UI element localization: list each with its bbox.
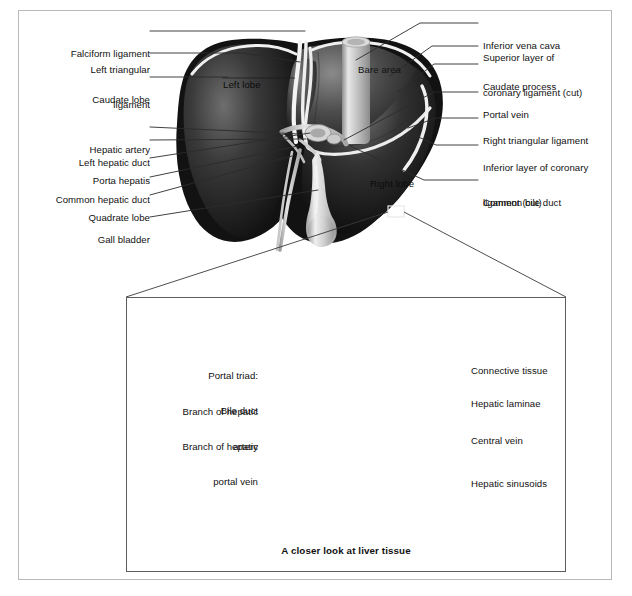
- label-right-lobe: Right lobe: [370, 178, 414, 189]
- label-common-bile-duct: Common bile duct: [483, 174, 628, 232]
- label-gall-bladder: Gall bladder: [0, 211, 150, 269]
- leader-portal-vein: [344, 92, 478, 140]
- leader-superior-coronary-ligament: [390, 46, 478, 76]
- leader-gall-bladder: [150, 190, 318, 217]
- leader-inferior-vena-cava: [356, 23, 478, 60]
- leader-left-triangular-ligament: [150, 53, 300, 62]
- leader-caudate-process: [398, 64, 478, 92]
- leader-inferior-coronary-ligament: [412, 134, 478, 145]
- leader-common-bile-duct: [350, 146, 478, 180]
- leader-right-triangular-ligament: [408, 118, 478, 128]
- label-bare-area: Bare area: [358, 64, 401, 75]
- inset-caption: A closer look at liver tissue: [126, 545, 566, 556]
- label-hepatic-sinusoids: Hepatic sinusoids: [471, 455, 581, 513]
- leader-hepatic-artery: [150, 127, 300, 134]
- label-branch-hepatic-portal-vein: Branch of hepatic portal vein: [130, 418, 258, 511]
- label-left-lobe: Left lobe: [223, 79, 261, 90]
- leader-porta-hepatis: [150, 133, 310, 158]
- leader-common-hepatic-duct: [150, 146, 298, 177]
- liver-anatomy-figure: Falciform ligament Left triangular ligam…: [0, 0, 632, 596]
- leader-left-hepatic-duct: [150, 139, 306, 140]
